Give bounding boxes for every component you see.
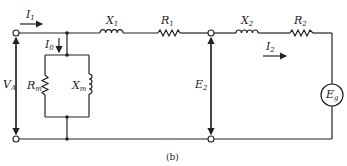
terminal-top-mid bbox=[208, 30, 214, 36]
x2-inductor-icon bbox=[236, 30, 258, 33]
label-r2: R2 bbox=[293, 14, 307, 28]
terminal-bottom-left bbox=[13, 136, 19, 142]
top-wire bbox=[19, 33, 332, 139]
r1-resistor-icon bbox=[158, 30, 180, 36]
xm-inductor-icon bbox=[89, 74, 92, 94]
terminal-bottom-mid bbox=[208, 136, 214, 142]
label-i0: I0 bbox=[44, 38, 54, 52]
figure-caption: (b) bbox=[166, 152, 179, 162]
label-xm: Xm bbox=[71, 79, 87, 93]
label-rm: Rm bbox=[26, 79, 42, 93]
r2-resistor-icon bbox=[290, 30, 313, 36]
label-r1: R1 bbox=[160, 14, 174, 28]
label-e2: E2 bbox=[194, 78, 208, 92]
label-va: VA bbox=[3, 78, 16, 92]
label-x1: X1 bbox=[105, 14, 118, 28]
label-i2: I2 bbox=[265, 40, 275, 54]
label-i1: I1 bbox=[25, 8, 35, 22]
terminal-top-left bbox=[13, 30, 19, 36]
equivalent-circuit-diagram: I1 I0 X1 R1 X2 R2 I2 VA Rm Xm E2 Eg (b) bbox=[0, 0, 347, 166]
rm-resistor-icon bbox=[42, 75, 48, 95]
x1-inductor-icon bbox=[100, 30, 123, 33]
label-x2: X2 bbox=[240, 14, 254, 28]
